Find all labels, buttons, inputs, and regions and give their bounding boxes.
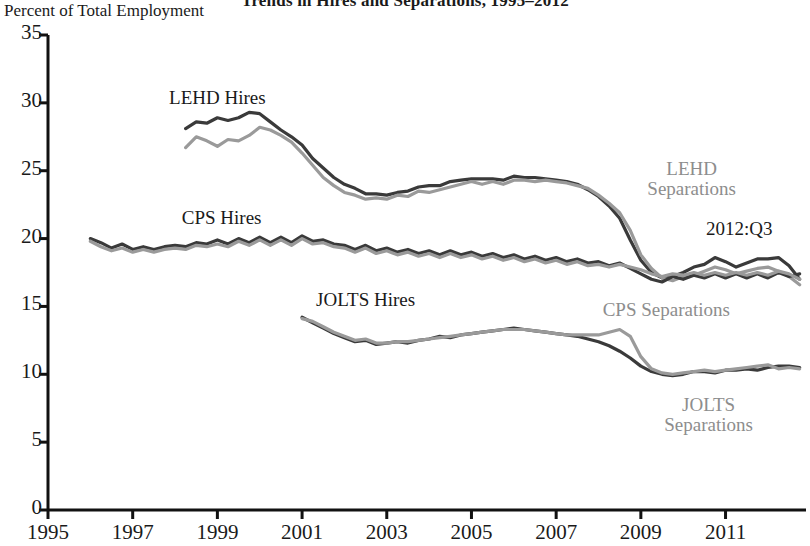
y-tick-label: 10 bbox=[0, 359, 42, 384]
annotation-2012-q3: 2012:Q3 bbox=[706, 218, 773, 240]
x-tick-label: 1997 bbox=[98, 520, 168, 545]
series-label-line: Separations bbox=[639, 415, 779, 436]
series-label-lehd-hires: LEHD Hires bbox=[147, 88, 287, 109]
series-label-line: JOLTS bbox=[639, 395, 779, 416]
chart-root: Trends in Hires and Separations, 1995–20… bbox=[0, 0, 810, 546]
series-label-jolts-hires: JOLTS Hires bbox=[296, 290, 436, 311]
y-tick-label: 0 bbox=[0, 495, 42, 520]
x-tick-label: 1995 bbox=[13, 520, 83, 545]
x-tick-label: 2005 bbox=[436, 520, 506, 545]
y-tick-label: 20 bbox=[0, 224, 42, 249]
series-label-cps-separations: CPS Separations bbox=[596, 300, 736, 321]
x-tick-label: 2003 bbox=[352, 520, 422, 545]
y-tick-label: 15 bbox=[0, 291, 42, 316]
series-label-lehd-separations: LEHDSeparations bbox=[622, 159, 762, 200]
x-tick-label: 2007 bbox=[521, 520, 591, 545]
series-label-jolts-separations: JOLTSSeparations bbox=[639, 395, 779, 436]
series-layer bbox=[90, 112, 799, 375]
x-tick-label: 1999 bbox=[182, 520, 252, 545]
x-tick-label: 2011 bbox=[691, 520, 761, 545]
series-label-line: Separations bbox=[622, 179, 762, 200]
series-label-line: LEHD bbox=[622, 159, 762, 180]
series-line-cps-hires bbox=[90, 236, 799, 282]
series-line-cps-separations bbox=[90, 239, 799, 280]
x-tick-label: 2009 bbox=[606, 520, 676, 545]
y-tick-label: 5 bbox=[0, 427, 42, 452]
series-label-cps-hires: CPS Hires bbox=[152, 208, 292, 229]
y-tick-label: 35 bbox=[0, 20, 42, 45]
y-tick-label: 30 bbox=[0, 88, 42, 113]
y-tick-label: 25 bbox=[0, 156, 42, 181]
series-line-jolts-separations bbox=[302, 319, 800, 375]
series-line-jolts-hires bbox=[302, 317, 800, 375]
plot-area bbox=[0, 0, 810, 546]
x-tick-label: 2001 bbox=[267, 520, 337, 545]
